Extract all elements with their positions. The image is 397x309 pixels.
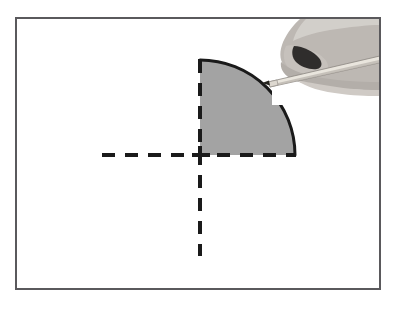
diagram-canvas: Quarter circle sector drawn by hand with… [0, 0, 397, 309]
image-border [15, 17, 381, 290]
